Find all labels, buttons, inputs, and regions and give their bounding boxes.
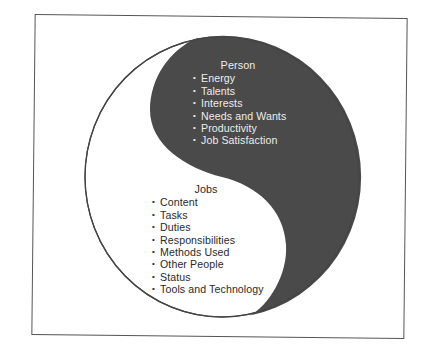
person-title: Person bbox=[193, 59, 283, 71]
jobs-title: Jobs bbox=[152, 183, 260, 195]
bullet-icon: • bbox=[152, 221, 155, 233]
bullet-icon: • bbox=[193, 85, 196, 97]
bullet-icon: • bbox=[193, 134, 196, 146]
person-section: Person •Energy •Talents •Interests •Need… bbox=[193, 59, 286, 147]
jobs-item: •Responsibilities bbox=[152, 234, 264, 246]
bullet-icon: • bbox=[152, 258, 155, 270]
yin-yang-graphic bbox=[0, 0, 425, 351]
bullet-icon: • bbox=[193, 72, 196, 84]
bullet-icon: • bbox=[152, 246, 155, 258]
person-item: •Energy bbox=[193, 72, 286, 84]
jobs-item: •Status bbox=[152, 271, 264, 283]
bullet-icon: • bbox=[152, 196, 155, 208]
jobs-item: •Methods Used bbox=[152, 246, 264, 258]
jobs-item: •Tools and Technology bbox=[152, 283, 264, 295]
person-item: •Needs and Wants bbox=[193, 110, 286, 122]
bullet-icon: • bbox=[193, 110, 196, 122]
bullet-icon: • bbox=[193, 122, 196, 134]
person-item: •Talents bbox=[193, 85, 286, 97]
jobs-item: •Other People bbox=[152, 258, 264, 270]
person-item: •Interests bbox=[193, 97, 286, 109]
jobs-list: •Content •Tasks •Duties •Responsibilitie… bbox=[152, 196, 264, 295]
jobs-section: Jobs •Content •Tasks •Duties •Responsibi… bbox=[152, 183, 264, 296]
jobs-item: •Duties bbox=[152, 221, 264, 233]
bullet-icon: • bbox=[193, 97, 196, 109]
bullet-icon: • bbox=[152, 209, 155, 221]
jobs-item: •Content bbox=[152, 196, 264, 208]
person-item: •Job Satisfaction bbox=[193, 134, 286, 146]
person-item: •Productivity bbox=[193, 122, 286, 134]
jobs-item: •Tasks bbox=[152, 209, 264, 221]
bullet-icon: • bbox=[152, 234, 155, 246]
bullet-icon: • bbox=[152, 283, 155, 295]
person-list: •Energy •Talents •Interests •Needs and W… bbox=[193, 72, 286, 146]
bullet-icon: • bbox=[152, 271, 155, 283]
